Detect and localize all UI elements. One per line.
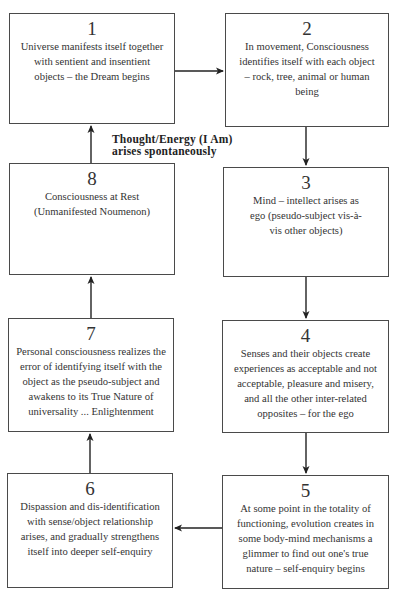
step-number: 5 <box>229 481 382 501</box>
step-box-2: 2 In movement, Consciousness identifies … <box>225 13 389 127</box>
step-text: Consciousness at Rest (Unmanifested Noum… <box>16 189 168 219</box>
step-text: Senses and their objects create experien… <box>229 346 382 421</box>
step-box-4: 4 Senses and their objects create experi… <box>222 320 389 433</box>
step-box-3: 3 Mind – intellect arises as ego (pseudo… <box>223 167 389 277</box>
step-box-8: 8 Consciousness at Rest (Unmanifested No… <box>9 163 175 275</box>
step-number: 1 <box>16 19 168 39</box>
step-number: 6 <box>14 479 166 499</box>
step-box-6: 6 Dispassion and dis-identification with… <box>7 473 173 588</box>
step-text: In movement, Consciousness identifies it… <box>232 39 382 99</box>
step-number: 3 <box>230 173 382 193</box>
step-box-7: 7 Personal consciousness realizes the er… <box>8 318 174 432</box>
step-text: At some point in the totality of functio… <box>229 501 382 576</box>
step-box-1: 1 Universe manifests itself together wit… <box>9 13 175 124</box>
step-box-5: 5 At some point in the totality of funct… <box>222 475 389 589</box>
step-text: Personal consciousness realizes the erro… <box>15 344 167 419</box>
step-text: Universe manifests itself together with … <box>16 39 168 84</box>
step-number: 7 <box>15 324 167 344</box>
step-text: Mind – intellect arises as ego (pseudo-s… <box>230 193 382 238</box>
edge-label-thought-energy: Thought/Energy (I Am) arises spontaneous… <box>112 133 233 157</box>
step-number: 2 <box>232 19 382 39</box>
step-number: 8 <box>16 169 168 189</box>
step-text: Dispassion and dis-identification with s… <box>14 499 166 559</box>
step-number: 4 <box>229 326 382 346</box>
